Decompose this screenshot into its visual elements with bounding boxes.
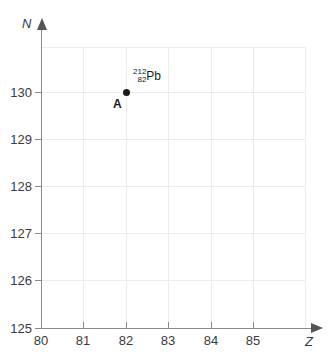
gridline-horizontal-127 [41,233,306,234]
gridline-vertical-right-edge [305,47,306,328]
x-tick-85 [253,322,254,329]
y-axis-line [41,28,42,328]
y-ticklabel-126: 126 [0,274,32,287]
x-tick-81 [83,322,84,329]
gridline-vertical-85 [253,47,254,328]
gridline-horizontal-top-edge [41,47,306,48]
y-axis-title: N [22,16,31,31]
x-tick-80 [41,322,42,329]
gridline-horizontal-130 [41,92,306,93]
y-tick-130 [35,92,42,93]
element-symbol: Pb [146,70,161,82]
x-ticklabel-84: 84 [191,334,231,347]
y-ticklabel-129: 129 [0,133,32,146]
x-ticklabel-85: 85 [233,334,273,347]
x-ticklabel-80: 80 [21,334,61,347]
plot-area: A 212 82 Pb [41,47,306,328]
x-tick-82 [126,322,127,329]
gridline-horizontal-129 [41,139,306,140]
x-ticklabel-82: 82 [106,334,146,347]
point-label-a: A [113,98,122,110]
y-ticklabel-127: 127 [0,227,32,240]
y-tick-128 [35,186,42,187]
x-tick-83 [168,322,169,329]
nuclide-chart-figure: A 212 82 Pb 130 129 128 127 126 125 80 8… [0,0,330,361]
x-ticklabel-83: 83 [148,334,188,347]
x-tick-84 [211,322,212,329]
x-ticklabel-81: 81 [63,334,103,347]
x-axis-arrow-icon [311,323,323,333]
gridline-horizontal-128 [41,186,306,187]
data-point-a[interactable] [123,89,130,96]
atomic-number: 82 [133,76,146,84]
gridline-vertical-83 [168,47,169,328]
y-ticklabel-130: 130 [0,86,32,99]
y-tick-129 [35,139,42,140]
x-axis-line [41,328,313,329]
y-tick-126 [35,280,42,281]
y-axis-arrow-icon [37,18,47,30]
gridline-horizontal-126 [41,280,306,281]
nuclide-numbers: 212 82 [133,68,146,84]
y-tick-127 [35,233,42,234]
x-axis-title: Z [305,334,313,349]
gridline-vertical-81 [83,47,84,328]
y-ticklabel-128: 128 [0,180,32,193]
nuclide-annotation-pb212: 212 82 Pb [133,68,161,84]
gridline-vertical-84 [211,47,212,328]
